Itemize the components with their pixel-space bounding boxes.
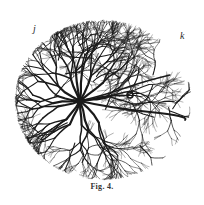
label-k: k (180, 31, 184, 41)
figure-caption: Fig. 4. (0, 182, 204, 191)
branching-network-illustration (0, 0, 204, 205)
branch-lines (15, 20, 190, 180)
label-j: j (33, 24, 36, 34)
